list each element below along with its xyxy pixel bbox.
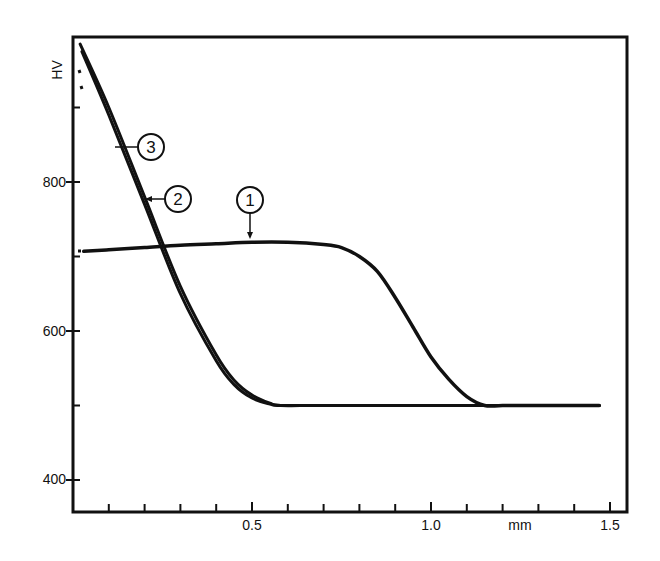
curve-2	[82, 52, 599, 406]
callout-2: 2	[145, 186, 191, 212]
hardness-depth-chart: 800 600 400 HV 0.5 1.0 1.5 mm 1 2 3	[0, 0, 660, 561]
curve-1	[84, 242, 600, 406]
y-tick-label-400: 400	[43, 471, 67, 487]
x-axis-unit-label: mm	[508, 517, 531, 533]
curve-3-start-dash	[79, 70, 80, 73]
curve-3	[80, 44, 599, 405]
x-tick-label-0.5: 0.5	[242, 517, 262, 533]
arrow-down-icon	[247, 232, 253, 239]
svg-text:3: 3	[146, 138, 155, 157]
y-tick-label-600: 600	[43, 323, 67, 339]
callout-1: 1	[237, 187, 263, 239]
x-tick-label-1.5: 1.5	[600, 517, 620, 533]
x-tick-label-1.0: 1.0	[421, 517, 441, 533]
y-tick-label-800: 800	[43, 174, 67, 190]
y-axis-label: HV	[49, 60, 65, 80]
svg-text:1: 1	[245, 191, 254, 210]
plot-frame	[73, 37, 627, 512]
curve-2-start-dash	[81, 86, 82, 89]
svg-text:2: 2	[173, 190, 182, 209]
